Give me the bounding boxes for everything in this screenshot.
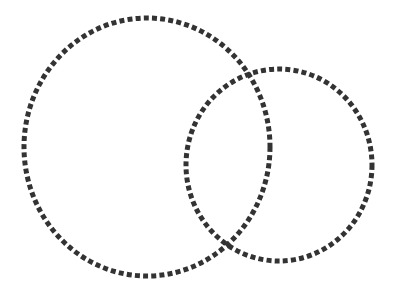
small-dotted-circle: [186, 69, 372, 261]
venn-diagram: [0, 0, 408, 308]
large-dotted-circle: [24, 18, 270, 276]
venn-diagram-canvas: Large dotted circle Small dotted circle: [0, 0, 408, 308]
